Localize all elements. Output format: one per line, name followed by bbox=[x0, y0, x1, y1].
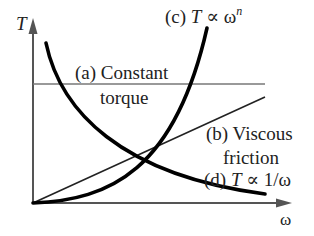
curve-c-label-rel: ∝ ω bbox=[201, 6, 236, 27]
curve-d-label-prefix: (d) bbox=[204, 169, 231, 190]
curve-c-label-prefix: (c) bbox=[165, 6, 191, 27]
x-axis-label: ω bbox=[280, 211, 291, 228]
curve-d-label: (d) T ∝ 1/ω bbox=[204, 170, 291, 189]
curve-a-label-line2: torque bbox=[100, 88, 149, 107]
curve-b-label-line2: friction bbox=[223, 148, 279, 167]
curve-c-label-sup: n bbox=[236, 4, 242, 18]
torque-speed-diagram bbox=[0, 0, 314, 236]
curve-b-label-line1: (b) Viscous bbox=[206, 124, 293, 143]
y-axis-label: T bbox=[16, 14, 27, 33]
curve-d-label-T: T bbox=[231, 169, 242, 190]
curve-d-label-rel: ∝ 1/ω bbox=[241, 169, 291, 190]
y-axis bbox=[29, 18, 38, 203]
y-axis-arrow-icon bbox=[29, 18, 38, 34]
x-axis-arrow-icon bbox=[276, 199, 292, 208]
curve-c-label-T: T bbox=[191, 6, 202, 27]
curve-a-label-line1: (a) Constant bbox=[75, 63, 168, 82]
curve-c-label: (c) T ∝ ωn bbox=[165, 5, 242, 26]
